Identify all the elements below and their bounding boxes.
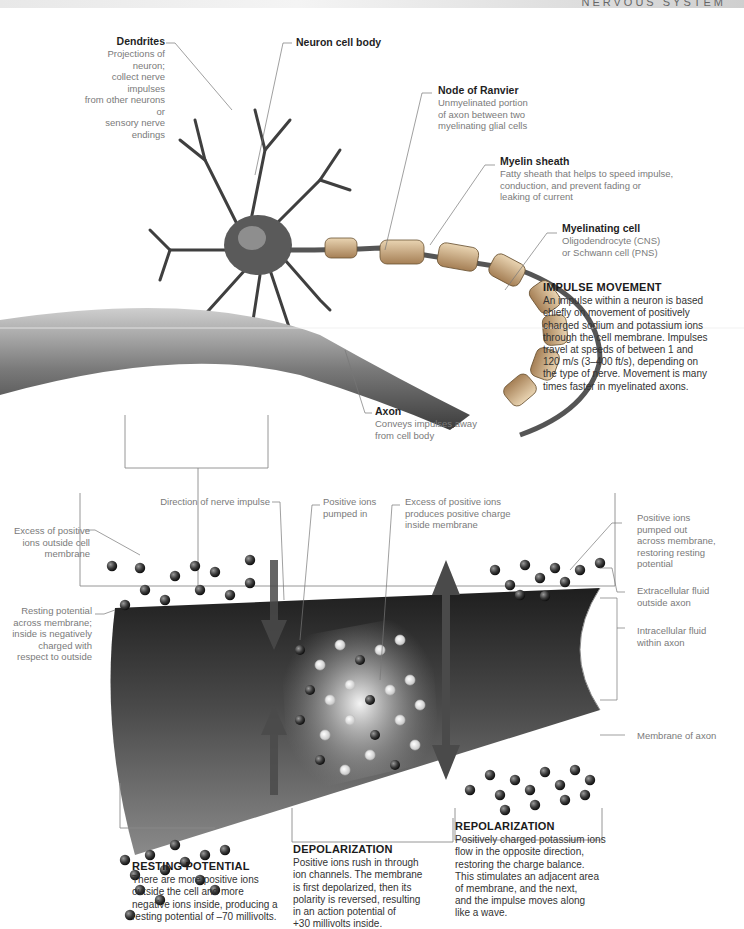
extracellular-fluid-label: Extracellular fluidoutside axon: [637, 585, 709, 608]
ion-particle: [410, 740, 420, 750]
positive-ions-pumped-out-label: Positive ionspumped out across membrane,…: [637, 512, 716, 570]
excess-positive-inside-label: Excess of positive ionsproduces positive…: [405, 496, 511, 531]
myelinating-cell-label: Myelinating cell Oligodendrocyte (CNS)or…: [562, 222, 660, 258]
ion-particle: [170, 571, 180, 581]
ion-particle: [560, 795, 570, 805]
ion-particle: [315, 660, 325, 670]
ion-particle: [220, 845, 230, 855]
ion-particle: [540, 767, 550, 777]
ion-particle: [375, 645, 385, 655]
ion-particle: [500, 805, 510, 815]
ion-particle: [335, 640, 345, 650]
ion-particle: [415, 700, 425, 710]
ion-particle: [385, 685, 395, 695]
ion-particle: [200, 850, 210, 860]
depolarization-box: DEPOLARIZATION Positive ions rush in thr…: [293, 843, 443, 929]
resting-potential-across-label: Resting potentialacross membrane; inside…: [0, 605, 92, 663]
ion-particle: [305, 685, 315, 695]
positive-ions-pumped-in-label: Positive ionspumped in: [323, 496, 376, 519]
ion-particle: [140, 585, 150, 595]
myelin-sheath-label: Myelin sheath Fatty sheath that helps to…: [500, 155, 673, 203]
ion-particle: [370, 730, 380, 740]
ion-particle: [495, 790, 505, 800]
ion-particle: [405, 675, 415, 685]
ion-particle: [195, 585, 205, 595]
ion-particle: [225, 590, 235, 600]
repolarization-box: REPOLARIZATION Positively charged potass…: [455, 820, 625, 920]
ion-particle: [107, 561, 117, 571]
ion-particle: [340, 765, 350, 775]
ion-particle: [295, 645, 305, 655]
ion-particle: [160, 595, 170, 605]
intracellular-fluid-label: Intracellular fluidwithin axon: [637, 625, 706, 648]
cell-body-label: Neuron cell body: [296, 36, 381, 49]
ion-particle: [345, 715, 355, 725]
ion-particle: [210, 567, 220, 577]
ion-particle: [505, 580, 515, 590]
ion-particle: [595, 558, 605, 568]
ion-particle: [485, 770, 495, 780]
ion-particle: [585, 775, 595, 785]
ion-particle: [570, 765, 580, 775]
ion-particle: [580, 790, 590, 800]
impulse-movement-box: IMPULSE MOVEMENT An impulse within a neu…: [543, 281, 743, 393]
ion-particle: [170, 840, 180, 850]
ion-particle: [510, 775, 520, 785]
ion-particle: [295, 715, 305, 725]
ion-particle: [465, 785, 475, 795]
ion-particle: [120, 600, 130, 610]
ion-particle: [245, 578, 255, 588]
ion-particle: [390, 760, 400, 770]
ion-particle: [555, 780, 565, 790]
ion-particle: [145, 850, 155, 860]
ion-particle: [345, 680, 355, 690]
axon-tube: [111, 588, 601, 855]
ion-particle: [355, 655, 365, 665]
ion-particle: [120, 855, 130, 865]
ion-particle: [490, 565, 500, 575]
membrane-of-axon-label: Membrane of axon: [637, 730, 716, 742]
ion-particle: [525, 785, 535, 795]
ion-particle: [530, 800, 540, 810]
ion-particle: [395, 715, 405, 725]
ion-particle: [395, 635, 405, 645]
ion-particle: [190, 561, 200, 571]
ion-particle: [515, 590, 525, 600]
axon-label: Axon Conveys impulses awayfrom cell body: [375, 405, 477, 441]
ion-particle: [320, 730, 330, 740]
ion-particle: [550, 563, 560, 573]
ion-particle: [540, 591, 550, 601]
ion-particle: [575, 565, 585, 575]
direction-of-impulse-label: Direction of nerve impulse: [150, 496, 270, 508]
ion-particle: [245, 555, 255, 565]
dendrites-label: Dendrites Projections of neuron;collect …: [75, 35, 165, 140]
excess-positive-outside-label: Excess of positiveions outside cell memb…: [0, 525, 90, 560]
ion-particle: [135, 563, 145, 573]
ion-particle: [365, 750, 375, 760]
ion-particle: [365, 695, 375, 705]
ion-particle: [315, 755, 325, 765]
ion-particle: [560, 577, 570, 587]
node-of-ranvier-label: Node of Ranvier Unmyelinated portionof a…: [438, 84, 528, 132]
neuron-cell-body: [150, 110, 350, 340]
ion-particle: [520, 560, 530, 570]
ion-particle: [325, 695, 335, 705]
resting-potential-box: RESTING POTENTIAL There are more positiv…: [132, 860, 292, 923]
ion-particle: [535, 573, 545, 583]
